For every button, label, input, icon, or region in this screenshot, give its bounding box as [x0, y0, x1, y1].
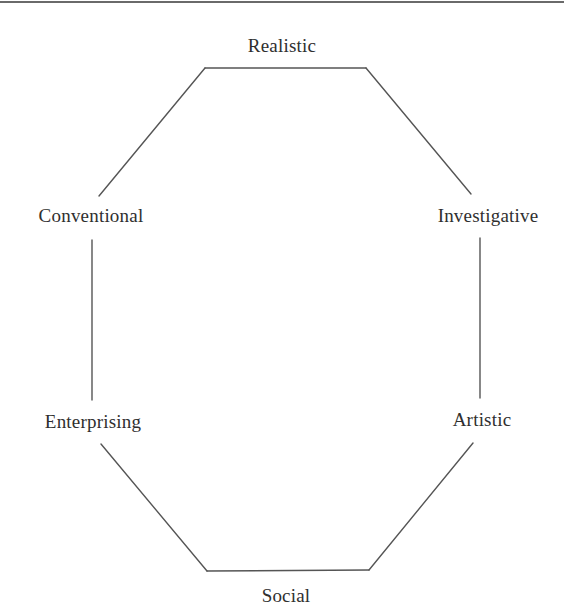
label-conventional: Conventional [39, 205, 144, 227]
edge-artistic-social [369, 443, 473, 570]
edge-social-bottom [207, 570, 369, 571]
label-social: Social [262, 585, 311, 607]
label-investigative: Investigative [438, 205, 539, 227]
label-realistic: Realistic [248, 35, 316, 57]
edge-realistic-investigative [366, 68, 471, 194]
label-artistic: Artistic [453, 409, 512, 431]
riasec-diagram [0, 0, 564, 614]
edge-social-enterprising [101, 444, 207, 571]
edge-conventional-realistic [99, 68, 205, 196]
label-enterprising: Enterprising [45, 411, 141, 433]
